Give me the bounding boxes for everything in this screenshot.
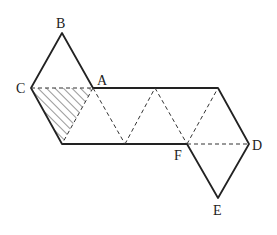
dashed-QR (125, 88, 155, 144)
geometry-diagram: B C A F D E (0, 0, 277, 235)
label-A: A (97, 73, 108, 88)
shaded-triangle (31, 88, 93, 144)
dashed-AQ (93, 88, 125, 144)
label-F: F (174, 148, 182, 163)
label-E: E (213, 203, 222, 218)
label-C: C (16, 81, 25, 96)
outline-top (93, 88, 249, 198)
label-B: B (56, 16, 65, 31)
dashed-RF (155, 88, 187, 144)
label-D: D (252, 138, 262, 153)
dashed-FS (187, 88, 218, 144)
